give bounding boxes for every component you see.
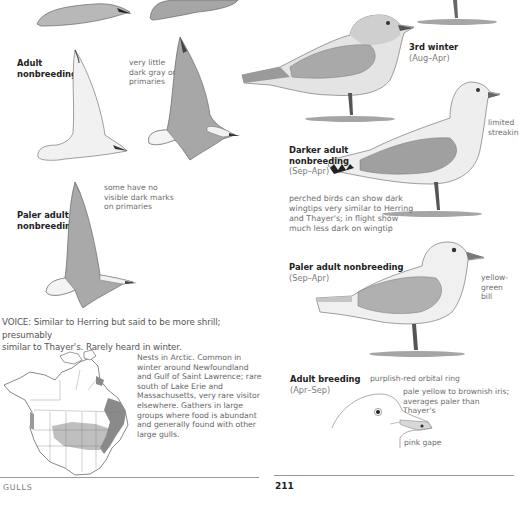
footer-rule-left (0, 477, 259, 478)
plate-title: nonbreeding (289, 156, 349, 167)
plate-label-paler-adult-nonbreeding: Paler adult nonbreeding (Sep–Apr) (289, 262, 404, 283)
range-line: elsewhere. Gathers in large (137, 401, 267, 411)
note-limited-streaking: limited streakin (488, 118, 519, 137)
note-line: perched birds can show dark (289, 194, 413, 204)
page-number: 211 (275, 481, 294, 491)
range-line: south of Lake Erie and (137, 382, 267, 392)
plate-label-third-winter: 3rd winter (Aug–Apr) (409, 42, 458, 63)
season-range: (Aug–Apr) (409, 53, 458, 63)
note-pink-gape: pink gape (404, 438, 442, 448)
cropped-gull-top-left-illustration (35, 0, 135, 28)
note-perched-birds-wingtips: perched birds can show dark wingtips ver… (289, 194, 413, 234)
range-line: Massachusetts, very rare visitor (137, 391, 267, 401)
paler-gull-flight-illustration (45, 180, 137, 308)
voice-description: VOICE: Similar to Herring but said to be… (2, 316, 272, 354)
note-orbital-ring: purplish-red orbital ring (370, 374, 460, 384)
season-range: (Sep–Apr) (289, 273, 404, 283)
note-yellow-green-bill: yellow- green bill (481, 273, 514, 302)
note-line: streakin (488, 128, 519, 138)
range-description: Nests in Arctic. Common in winter around… (137, 353, 267, 439)
plate-title: Adult breeding (290, 374, 361, 385)
gull-flight-underwing-illustration (35, 45, 130, 165)
note-line: yellow- (481, 273, 514, 283)
cropped-gull-top-center-illustration (148, 0, 243, 22)
note-line: green bill (481, 283, 514, 302)
range-line: and Gulf of Saint Lawrence; rare (137, 372, 267, 382)
season-range: (Sep–Apr) (289, 166, 349, 176)
cropped-gull-leg-illustration (415, 0, 500, 30)
plate-title: 3rd winter (409, 42, 458, 53)
range-line: large gulls. (137, 430, 267, 440)
note-line: limited (488, 118, 519, 128)
note-line: and Thayer's; in flight show (289, 214, 413, 224)
plate-label-darker-adult-nonbreeding: Darker adult nonbreeding (Sep–Apr) (289, 145, 349, 176)
plate-title: Paler adult nonbreeding (289, 262, 404, 273)
range-line: winter around Newfoundland (137, 363, 267, 373)
section-footer: GULLS (3, 483, 32, 492)
paler-adult-gull-illustration (312, 240, 492, 360)
footer-rule-right (274, 475, 514, 476)
range-line: Nests in Arctic. Common in (137, 353, 267, 363)
range-line: and generally found with other (137, 420, 267, 430)
plate-title: Darker adult (289, 145, 349, 156)
voice-line: VOICE: Similar to Herring but said to be… (2, 316, 272, 341)
range-map-north-america (0, 350, 130, 475)
range-line: groups where food is abundant (137, 411, 267, 421)
gull-flight-upperwing-illustration (145, 35, 240, 165)
note-line: much less dark on wingtip (289, 224, 413, 234)
note-line: wingtips very similar to Herring (289, 204, 413, 214)
